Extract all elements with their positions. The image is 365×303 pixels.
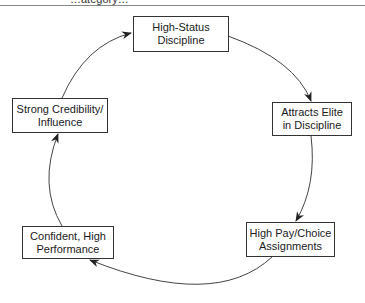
node-label-line2: Performance	[30, 243, 106, 256]
node-label-line1: High Pay/Choice	[250, 227, 332, 240]
node-credibility: Strong Credibility/ Influence	[12, 98, 108, 133]
node-label-line1: Strong Credibility/	[17, 103, 104, 116]
node-label-line2: Influence	[17, 116, 104, 129]
arrow-credibility-to-status	[62, 33, 131, 98]
node-label-line1: Attracts Elite	[281, 106, 343, 119]
node-high-status: High-Status Discipline	[133, 16, 229, 52]
node-label-line2: Assignments	[250, 240, 332, 253]
node-label-line1: Confident, High	[30, 230, 106, 243]
arrow-status-to-elite	[228, 36, 311, 101]
node-label-line2: in Discipline	[281, 119, 343, 132]
arrow-pay-to-confident	[90, 257, 272, 284]
node-confident: Confident, High Performance	[22, 226, 114, 259]
node-label-line2: Discipline	[152, 34, 209, 47]
arrow-confident-to-credibility	[49, 134, 62, 226]
arrow-elite-to-pay	[296, 136, 312, 221]
node-attracts-elite: Attracts Elite in Discipline	[272, 102, 352, 136]
node-label-line1: High-Status	[152, 21, 209, 34]
node-high-pay: High Pay/Choice Assignments	[246, 222, 335, 257]
